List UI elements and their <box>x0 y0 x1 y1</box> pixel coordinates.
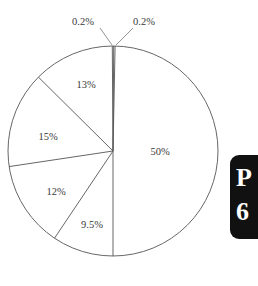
slice-label-12: 12% <box>46 186 66 197</box>
slice-label-15: 15% <box>38 131 58 142</box>
pie-chart-figure: 50% 9.5% 12% 15% 13% 0.2% 0.2% P 6 <box>0 0 258 286</box>
slice-label-9-5: 9.5% <box>81 219 103 230</box>
page-badge-line-2: 6 <box>236 195 258 229</box>
pie-chart-svg: 50% 9.5% 12% 15% 13% 0.2% 0.2% <box>0 0 258 286</box>
slice-label-13: 13% <box>76 79 96 90</box>
slice-label-0-2-left: 0.2% <box>72 16 94 27</box>
page-badge: P 6 <box>230 155 258 239</box>
callout-leader-left <box>100 28 112 45</box>
slice-label-50: 50% <box>150 146 170 157</box>
callout-leader-right <box>116 28 133 45</box>
page-badge-line-1: P <box>236 161 258 195</box>
slice-label-0-2-right: 0.2% <box>133 16 155 27</box>
